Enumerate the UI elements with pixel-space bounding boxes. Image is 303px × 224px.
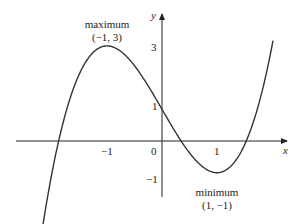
- y-tick-3: 3: [151, 41, 157, 53]
- maximum-coords: (−1, 3): [92, 31, 122, 44]
- x-tick-1: 1: [214, 145, 220, 157]
- y-tick-1: 1: [152, 100, 158, 112]
- origin-label: 0: [151, 145, 157, 157]
- minimum-label: minimum: [196, 186, 239, 198]
- y-tick-neg1: −1: [146, 173, 158, 185]
- x-axis-label: x: [282, 144, 288, 156]
- minimum-coords: (1, −1): [202, 199, 232, 212]
- y-axis-label: y: [150, 9, 156, 21]
- cubic-graph: x y 0 −1 1 3 1 −1 maximum (−1, 3) minimu…: [0, 0, 303, 224]
- x-tick-neg1: −1: [101, 145, 113, 157]
- maximum-label: maximum: [85, 18, 130, 30]
